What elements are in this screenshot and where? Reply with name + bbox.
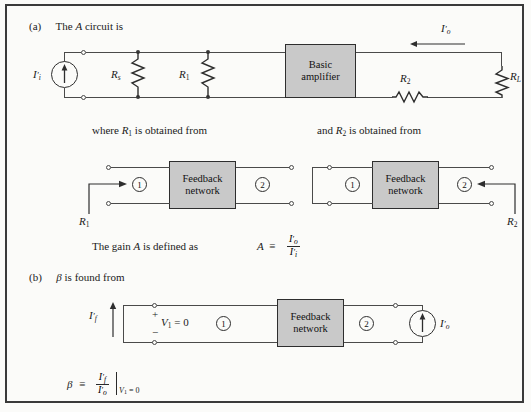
plus-sign: + — [152, 308, 158, 320]
wire-fb-right-top-out — [439, 167, 490, 168]
wire-b-top-right — [344, 305, 394, 306]
r1-input-arrow-icon — [85, 172, 129, 214]
gain-eq-rel: ≡ — [269, 240, 275, 252]
r2-arrow-label: R2 — [507, 215, 517, 229]
wire-fb-right-top-short — [312, 167, 328, 168]
wire-fb-left-top-in — [111, 167, 170, 168]
fb-b-line1: Feedback — [290, 311, 330, 322]
source-arrow-up-icon — [51, 61, 78, 88]
fb-left-line2: network — [185, 185, 219, 196]
source-b-arrow-up-icon — [409, 310, 436, 337]
wire-b-src-bot — [422, 337, 423, 343]
figure-frame: (a) The A circuit is I′i — [5, 4, 524, 403]
fb-right-line1: Feedback — [385, 173, 425, 184]
wire-top-left — [64, 52, 81, 53]
rs-label: Rs — [111, 68, 121, 82]
resistor-r1-symbol — [199, 52, 217, 97]
r1-arrow-label: R1 — [79, 215, 89, 229]
wire-out-bottom-right — [427, 97, 502, 98]
beta-eval-bar — [116, 372, 117, 395]
left-caption: where R1 is obtained from — [92, 124, 207, 138]
port-1-partb: 1 — [216, 316, 231, 331]
wire-b-bot-left — [123, 342, 153, 343]
v1-zero-label: V1 = 0 — [161, 316, 189, 330]
fb-left-terminal-top-out — [289, 165, 294, 170]
wire-fb-left-top-out — [236, 167, 290, 168]
wire-b-bot-mid — [157, 342, 277, 343]
wire-out-top — [356, 52, 502, 53]
r2-label-a: R2 — [400, 72, 410, 86]
input-current-label: I′i — [33, 68, 41, 82]
wire-fb-right-bot-in — [332, 203, 373, 204]
fb-right-line2: network — [388, 185, 422, 196]
gain-fraction: I′o I′i — [287, 234, 300, 259]
wire-b-top-to-src — [398, 305, 423, 306]
wire-b-left-vert — [123, 305, 124, 342]
feedback-network-block-left: Feedback network — [169, 161, 236, 209]
beta-fraction: I′f I′o — [96, 372, 109, 397]
port-1-left: 1 — [132, 177, 147, 192]
wire-b-top-mid — [157, 305, 277, 306]
feedback-current-arrow-up-icon — [107, 301, 119, 339]
wire-top-a — [86, 52, 285, 53]
beta-rel: ≡ — [79, 378, 85, 390]
port-2-partb: 2 — [359, 316, 374, 331]
port-2-left: 2 — [255, 177, 270, 192]
amplifier-line1: Basic — [309, 59, 332, 70]
r1-label: R1 — [179, 68, 189, 82]
fb-left-terminal-bot-out — [289, 201, 294, 206]
wire-fb-right-bot-short — [312, 203, 328, 204]
amplifier-line2: amplifier — [301, 71, 339, 82]
gain-eq-lhs: A — [257, 240, 264, 252]
wire-b-bot-right — [344, 342, 394, 343]
resistor-rs-symbol — [129, 52, 147, 97]
feedback-network-block-right: Feedback network — [372, 161, 439, 209]
gain-denominator: I′i — [287, 247, 300, 259]
figure-page: (a) The A circuit is I′i — [0, 0, 531, 412]
wire-rl-top — [501, 52, 502, 66]
gain-text: The gain A is defined as — [92, 240, 198, 252]
output-current-arrow-left-icon — [407, 38, 467, 50]
part-b-label: (b) β is found from — [29, 271, 124, 283]
basic-amplifier-block: Basic amplifier — [285, 44, 356, 98]
r2-input-arrow-icon — [475, 172, 519, 214]
wire-bottom-left — [64, 97, 81, 98]
output-current-label-b: I′o — [440, 317, 449, 331]
wire-fb-right-short — [312, 167, 313, 204]
wire-b-bot-to-src — [398, 342, 423, 343]
output-current-label: I′o — [441, 22, 450, 36]
beta-lhs: β — [67, 378, 72, 390]
minus-sign: − — [152, 326, 158, 338]
feedback-current-label: I′f — [89, 309, 97, 323]
fb-right-terminal-top-out — [489, 165, 494, 170]
part-a-label: (a) The A circuit is — [29, 20, 123, 32]
right-caption: and R2 is obtained from — [317, 124, 421, 138]
feedback-network-block-b: Feedback network — [277, 299, 344, 347]
port-1-right: 1 — [345, 177, 360, 192]
wire-bottom-a — [86, 97, 285, 98]
rl-label: RL — [510, 70, 521, 84]
wire-fb-left-bot-out — [236, 203, 290, 204]
wire-fb-right-top-in — [332, 167, 373, 168]
fb-b-line2: network — [293, 323, 327, 334]
beta-denominator: I′o — [96, 385, 109, 397]
wire-b-top-left — [123, 305, 153, 306]
port-2-right: 2 — [457, 177, 472, 192]
fb-left-line1: Feedback — [182, 173, 222, 184]
wire-src-top — [64, 52, 65, 62]
beta-condition: V1 = 0 — [119, 386, 139, 395]
wire-out-bottom-left — [356, 97, 393, 98]
resistor-r2-symbol — [392, 90, 428, 105]
